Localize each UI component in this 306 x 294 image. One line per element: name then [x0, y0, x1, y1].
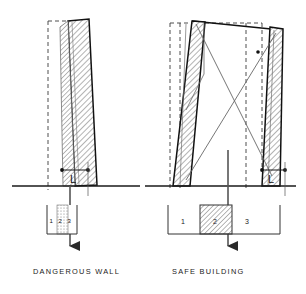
zone-bar-left: 1 2 3 [47, 205, 77, 234]
zone-label-2-right: 2 [213, 218, 217, 225]
dimension-label-right: L [268, 173, 274, 185]
dimension-label-left: L [70, 173, 76, 185]
zone-bar-right: 1 2 3 [168, 205, 280, 234]
figure-root: L 1 2 3 DANGEROUS WALL [0, 0, 306, 294]
engineering-diagram: L 1 2 3 DANGEROUS WALL [0, 0, 306, 294]
reference-marker-dot [256, 50, 260, 54]
diagram-background [0, 0, 306, 294]
caption-dangerous-wall: DANGEROUS WALL [33, 267, 120, 276]
zone-label-1-right: 1 [181, 218, 185, 225]
caption-safe-building: SAFE BUILDING [172, 267, 245, 276]
zone-label-3-right: 3 [245, 218, 249, 225]
